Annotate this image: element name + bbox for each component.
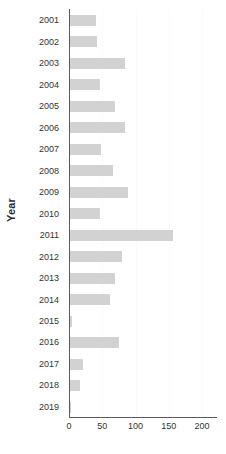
bar-row: [69, 74, 226, 95]
y-tick-label-2003: 2003: [22, 53, 64, 74]
y-tick-label-2009: 2009: [22, 182, 64, 203]
bar-row: [69, 139, 226, 160]
bar-chart: Year 20012002200320042005200620072008200…: [0, 0, 226, 454]
y-tick-label-2012: 2012: [22, 246, 64, 267]
bar-row: [69, 225, 226, 246]
bar-2011[interactable]: [69, 230, 173, 241]
bar-row: [69, 246, 226, 267]
bar-2014[interactable]: [69, 294, 110, 305]
bar-2017[interactable]: [69, 359, 83, 370]
bar-row: [69, 332, 226, 353]
bar-row: [69, 375, 226, 396]
bar-2008[interactable]: [69, 165, 113, 176]
y-tick-label-2002: 2002: [22, 31, 64, 52]
x-axis-line: [69, 417, 217, 418]
x-tick-label-0: 0: [66, 421, 71, 431]
y-tick-label-2014: 2014: [22, 289, 64, 310]
bar-row: [69, 96, 226, 117]
y-tick-label-2013: 2013: [22, 268, 64, 289]
bar-row: [69, 203, 226, 224]
bar-2005[interactable]: [69, 101, 115, 112]
bar-row: [69, 397, 226, 418]
y-tick-label-2011: 2011: [22, 225, 64, 246]
y-tick-label-2015: 2015: [22, 311, 64, 332]
bar-2001[interactable]: [69, 15, 96, 26]
y-tick-label-2008: 2008: [22, 160, 64, 181]
bar-2012[interactable]: [69, 251, 122, 262]
x-axis-tick-labels: 050100150200: [0, 421, 226, 437]
bar-2007[interactable]: [69, 144, 101, 155]
x-tick-label-200: 200: [194, 421, 209, 431]
bar-2002[interactable]: [69, 36, 97, 47]
bar-row: [69, 31, 226, 52]
bar-2018[interactable]: [69, 380, 80, 391]
bar-2010[interactable]: [69, 208, 100, 219]
y-tick-label-2018: 2018: [22, 375, 64, 396]
bar-row: [69, 53, 226, 74]
y-tick-label-2004: 2004: [22, 74, 64, 95]
bar-row: [69, 268, 226, 289]
bar-row: [69, 117, 226, 138]
bar-2013[interactable]: [69, 273, 115, 284]
bar-2009[interactable]: [69, 187, 128, 198]
y-tick-label-2006: 2006: [22, 117, 64, 138]
bar-row: [69, 182, 226, 203]
y-tick-label-2005: 2005: [22, 96, 64, 117]
y-tick-label-2016: 2016: [22, 332, 64, 353]
y-axis-tick-labels: 2001200220032004200520062007200820092010…: [22, 10, 64, 418]
bar-row: [69, 10, 226, 31]
y-tick-label-2007: 2007: [22, 139, 64, 160]
y-axis-line: [69, 9, 70, 418]
y-tick-label-2019: 2019: [22, 397, 64, 418]
bar-2004[interactable]: [69, 79, 100, 90]
x-tick-label-50: 50: [97, 421, 107, 431]
y-tick-label-2010: 2010: [22, 203, 64, 224]
bar-2003[interactable]: [69, 58, 125, 69]
bar-2016[interactable]: [69, 337, 119, 348]
bar-row: [69, 311, 226, 332]
y-tick-label-2017: 2017: [22, 354, 64, 375]
x-tick-label-100: 100: [128, 421, 143, 431]
y-axis-title-label: Year: [5, 198, 17, 222]
bar-row: [69, 354, 226, 375]
plot-area: [69, 10, 226, 418]
y-tick-label-2001: 2001: [22, 10, 64, 31]
bar-row: [69, 289, 226, 310]
bar-row: [69, 160, 226, 181]
bar-2006[interactable]: [69, 122, 125, 133]
y-axis-title: Year: [0, 0, 22, 420]
x-tick-label-150: 150: [161, 421, 176, 431]
